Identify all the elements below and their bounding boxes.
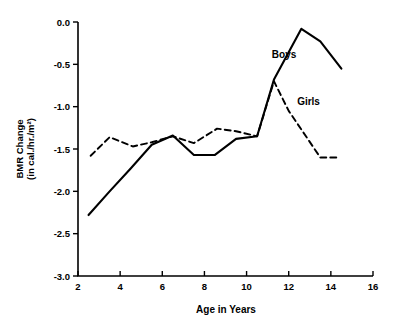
x-axis-tick-labels: 246810121416: [75, 281, 378, 292]
x-tick-label: 10: [241, 281, 252, 292]
y-axis-title-line2: (in cal./hr./m²): [25, 118, 36, 180]
y-tick-label: -0.5: [54, 59, 71, 70]
x-tick-label: 8: [202, 281, 207, 292]
axis-frame: [78, 22, 373, 276]
y-tick-label: -2.5: [54, 228, 71, 239]
bmr-change-line-chart: 0.0-0.5-1.0-1.5-2.0-2.5-3.0 246810121416…: [0, 0, 400, 323]
chart-figure: 0.0-0.5-1.0-1.5-2.0-2.5-3.0 246810121416…: [0, 0, 400, 323]
x-tick-label: 4: [117, 281, 123, 292]
y-tick-label: -1.0: [54, 101, 70, 112]
x-axis-title: Age in Years: [196, 304, 256, 315]
y-axis-title: BMR Change (in cal./hr./m²): [14, 118, 36, 180]
y-tick-label: -2.0: [54, 186, 70, 197]
x-tick-label: 16: [368, 281, 379, 292]
y-tick-label: -3.0: [54, 271, 70, 282]
series-line-boys: [89, 29, 342, 215]
x-tick-label: 14: [326, 281, 337, 292]
x-tick-label: 6: [160, 281, 165, 292]
x-tick-label: 12: [283, 281, 294, 292]
y-axis-title-line1: BMR Change: [14, 119, 25, 178]
series-annotation-labels: BoysGirls: [272, 49, 321, 107]
y-tick-label: -1.5: [54, 144, 71, 155]
x-tick-label: 2: [75, 281, 80, 292]
series-label-boys: Boys: [272, 49, 297, 60]
series-line-girls: [91, 81, 340, 157]
series-label-girls: Girls: [297, 96, 320, 107]
chart-series-layer: [89, 29, 342, 215]
y-axis-tick-labels: 0.0-0.5-1.0-1.5-2.0-2.5-3.0: [54, 17, 71, 282]
y-tick-label: 0.0: [57, 17, 70, 28]
